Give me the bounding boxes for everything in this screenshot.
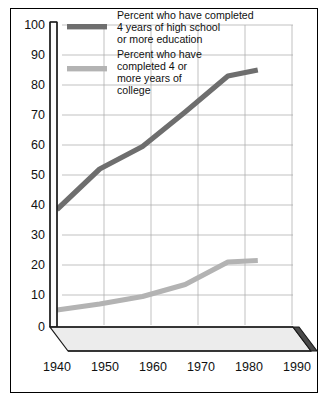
- series-line-high-school: [57, 70, 258, 210]
- y-tick-70: 70: [31, 108, 45, 122]
- y-tick-10: 10: [31, 288, 45, 302]
- legend-label-high-school-line1: Percent who have completed: [117, 9, 254, 21]
- legend-label-high-school-line2: 4 years of high school: [117, 21, 220, 33]
- y-tick-100: 100: [24, 18, 45, 32]
- y-tick-40: 40: [31, 198, 45, 212]
- y-tick-60: 60: [31, 138, 45, 152]
- y-axis-3d-column: [50, 22, 57, 327]
- legend-swatch-college: [67, 66, 107, 71]
- x-tick-1970: 1970: [187, 360, 215, 374]
- x-axis-3d-base: [50, 327, 317, 351]
- line-chart-svg: 100 90 80 70 60 50 40 30 20 10 0 1940 19…: [0, 0, 330, 404]
- legend-label-college-line1: Percent who have: [117, 48, 202, 60]
- x-tick-1940: 1940: [43, 360, 71, 374]
- y-tick-0: 0: [38, 320, 45, 334]
- x-tick-1960: 1960: [139, 360, 167, 374]
- chart-figure: 100 90 80 70 60 50 40 30 20 10 0 1940 19…: [0, 0, 330, 404]
- legend-swatch-high-school: [67, 24, 107, 29]
- y-axis-tick-labels: 100 90 80 70 60 50 40 30 20 10 0: [24, 18, 45, 334]
- x-axis-tick-labels: 1940 1950 1960 1970 1980 1990: [43, 360, 311, 374]
- chart-plot-area: 100 90 80 70 60 50 40 30 20 10 0 1940 19…: [0, 0, 330, 404]
- y-tick-80: 80: [31, 78, 45, 92]
- chart-legend: Percent who have completed 4 years of hi…: [67, 9, 254, 96]
- y-tick-90: 90: [31, 48, 45, 62]
- series-line-college: [57, 261, 258, 311]
- legend-label-high-school-line3: or more education: [117, 33, 202, 45]
- legend-entry-high-school: Percent who have completed 4 years of hi…: [67, 9, 254, 45]
- x-tick-1990: 1990: [283, 360, 311, 374]
- y-tick-30: 30: [31, 228, 45, 242]
- legend-label-college-line2: completed 4 or: [117, 60, 188, 72]
- x-tick-1980: 1980: [235, 360, 263, 374]
- x-tick-1950: 1950: [91, 360, 119, 374]
- legend-label-college-line3: more years of: [117, 72, 182, 84]
- y-tick-20: 20: [31, 258, 45, 272]
- y-tick-50: 50: [31, 168, 45, 182]
- legend-label-college-line4: college: [117, 84, 151, 96]
